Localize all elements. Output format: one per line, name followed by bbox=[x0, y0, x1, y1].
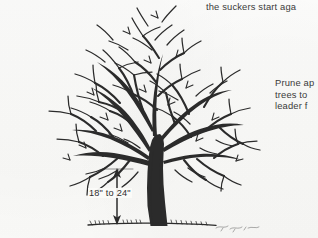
caption-right-block: Prune ap trees to leader f bbox=[275, 77, 314, 112]
caption-right-line-3: leader f bbox=[275, 100, 314, 112]
caption-right-line-2: trees to bbox=[275, 89, 314, 101]
tree-illustration bbox=[0, 0, 318, 238]
caption-right-line-1: Prune ap bbox=[275, 77, 314, 89]
ground-line bbox=[88, 220, 259, 232]
dimension-label: 18" to 24" bbox=[88, 188, 132, 198]
caption-top-text: the suckers start aga bbox=[206, 1, 296, 13]
illustration-page: the suckers start aga Prune ap trees to … bbox=[0, 0, 318, 238]
